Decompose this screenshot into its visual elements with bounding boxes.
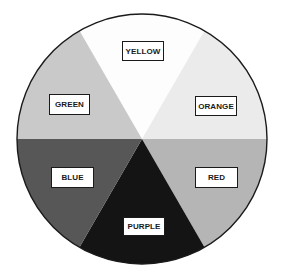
label-yellow: YELLOW [122,41,164,61]
label-blue: BLUE [51,167,94,188]
label-orange: ORANGE [195,96,237,116]
label-purple: PURPLE [123,217,165,236]
label-red: RED [195,167,238,188]
label-green: GREEN [49,94,90,115]
